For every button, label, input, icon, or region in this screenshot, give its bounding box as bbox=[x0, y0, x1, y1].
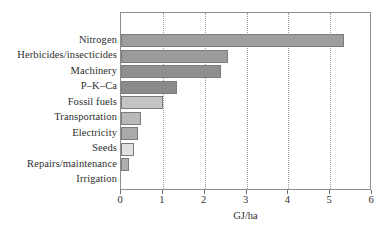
x-axis: 0123456 bbox=[120, 190, 371, 210]
x-tick-label: 2 bbox=[192, 194, 216, 206]
bar bbox=[121, 112, 141, 125]
x-tick-label: 6 bbox=[359, 194, 383, 206]
category-label: Fossil fuels bbox=[0, 96, 117, 107]
bar bbox=[121, 96, 163, 109]
category-label: Seeds bbox=[0, 142, 117, 153]
bar bbox=[121, 81, 177, 94]
category-label: Nitrogen bbox=[0, 34, 117, 45]
x-tick-label: 5 bbox=[317, 194, 341, 206]
x-tick-label: 0 bbox=[108, 194, 132, 206]
category-label: P–K–Ca bbox=[0, 80, 117, 91]
plot-area bbox=[120, 12, 371, 190]
bar bbox=[121, 50, 228, 63]
bar bbox=[121, 127, 138, 140]
category-axis: NitrogenHerbicides/insecticidesMachinery… bbox=[0, 12, 117, 190]
bar bbox=[121, 143, 134, 156]
category-label: Repairs/maintenance bbox=[0, 158, 117, 169]
x-tick-label: 1 bbox=[150, 194, 174, 206]
category-label: Transportation bbox=[0, 111, 117, 122]
category-label: Machinery bbox=[0, 65, 117, 76]
bar bbox=[121, 34, 344, 47]
bar bbox=[121, 158, 129, 171]
category-label: Electricity bbox=[0, 127, 117, 138]
x-tick-label: 3 bbox=[234, 194, 258, 206]
x-axis-title: GJ/ha bbox=[120, 210, 371, 222]
x-tick-label: 4 bbox=[275, 194, 299, 206]
category-label: Herbicides/insecticides bbox=[0, 49, 117, 60]
category-label: Irrigation bbox=[0, 173, 117, 184]
bar bbox=[121, 65, 221, 78]
bar-chart: NitrogenHerbicides/insecticidesMachinery… bbox=[0, 0, 383, 234]
